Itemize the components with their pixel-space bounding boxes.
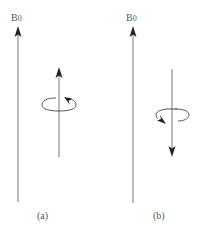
caption-a: (a) (37, 210, 48, 222)
spin-up-arrow-a (56, 67, 63, 157)
rotation-arrowhead-icon (64, 97, 72, 105)
field-label-a: B0 (11, 12, 22, 23)
field-label-b: B0 (126, 12, 137, 23)
nmr-spin-diagram: B0 (a) B0 (b (0, 0, 201, 232)
panel-b: B0 (b) (126, 12, 189, 222)
b0-field-arrow-a (15, 26, 22, 202)
spin-down-arrow-b (169, 69, 176, 157)
rotation-arrowhead-icon (157, 115, 166, 124)
b0-field-arrow-b (130, 26, 137, 203)
panel-a: B0 (a) (11, 12, 76, 222)
caption-b: (b) (153, 210, 165, 222)
